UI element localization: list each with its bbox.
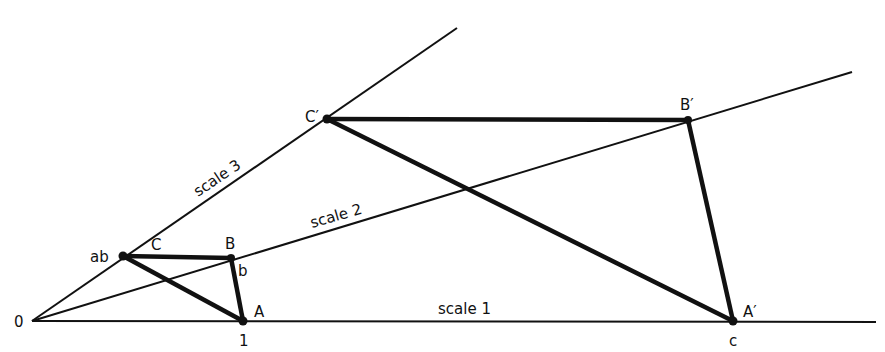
diagram-svg: 0 ab C B b A 1 C′ B′ A′ c scale 1 scale … — [0, 0, 885, 352]
point-ab — [119, 252, 128, 261]
point-b — [227, 254, 235, 262]
label-c: C — [151, 236, 161, 254]
large-triangle — [327, 119, 733, 321]
scale-2-label: scale 2 — [308, 200, 364, 232]
label-b-prime: B′ — [680, 96, 694, 114]
scale-1-line — [32, 321, 876, 322]
similar-triangles-diagram: 0 ab C B b A 1 C′ B′ A′ c scale 1 scale … — [0, 0, 885, 352]
point-b-prime — [684, 116, 692, 124]
label-one: 1 — [239, 332, 249, 350]
point-a-prime — [729, 317, 738, 326]
label-b-mark: b — [238, 262, 248, 280]
point-c-prime — [323, 115, 332, 124]
origin-label: 0 — [14, 313, 24, 331]
label-c-prime: C′ — [305, 108, 319, 126]
label-a-prime: A′ — [743, 303, 757, 321]
scale-2-line — [32, 72, 852, 321]
point-a — [239, 317, 248, 326]
label-a: A — [254, 303, 265, 321]
label-c-mark: c — [729, 332, 737, 350]
scale-1-label: scale 1 — [438, 300, 491, 318]
label-b-point: B — [225, 235, 235, 253]
label-ab: ab — [90, 248, 109, 266]
